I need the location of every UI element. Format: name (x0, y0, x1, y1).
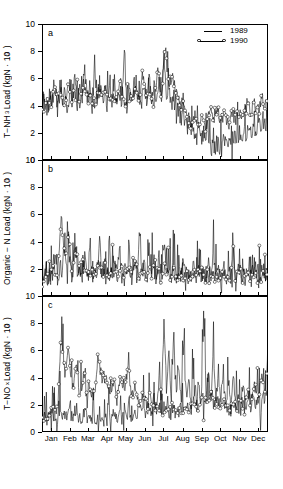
panel-c-marker-1990 (46, 417, 49, 420)
panel-c-marker-1990 (169, 405, 172, 408)
panel-c-marker-1990 (148, 391, 151, 394)
panel-c-marker-1990 (145, 397, 148, 400)
panel-c-marker-1990 (204, 396, 207, 399)
panel-c-marker-1990 (48, 414, 51, 417)
panel-c-marker-1990 (104, 376, 107, 379)
panel-c-marker-1990 (156, 405, 159, 408)
figure-root: T−NH3 Load (kgN · 103) a 1989 1990 Organ… (0, 0, 283, 489)
panel-c-marker-1990 (106, 381, 109, 384)
panel-c-marker-1990 (117, 391, 120, 394)
panel-c-marker-1990 (87, 380, 90, 383)
panel-c-marker-1990 (197, 409, 200, 412)
panel-c-marker-1990 (96, 353, 99, 356)
panel-c-marker-1990 (208, 399, 211, 402)
panel-c-series-layer (0, 0, 283, 489)
panel-c-marker-1990 (41, 416, 44, 419)
panel-c-marker-1990 (80, 360, 83, 363)
panel-c-marker-1990 (249, 404, 252, 407)
panel-c-marker-1990 (65, 367, 68, 370)
panel-c-marker-1990 (232, 403, 235, 406)
panel-c-marker-1990 (122, 376, 125, 379)
panel-c-marker-1990 (171, 401, 174, 404)
panel-c-marker-1990 (152, 404, 155, 407)
panel-c-marker-1990 (68, 364, 71, 367)
panel-c-marker-1990 (174, 409, 177, 412)
panel-c-marker-1990 (76, 371, 79, 374)
panel-c-marker-1990 (159, 388, 162, 391)
panel-c-marker-1990 (195, 405, 198, 408)
panel-c-marker-1990 (98, 360, 101, 363)
panel-c-marker-1990 (198, 403, 201, 406)
panel-c-marker-1990 (57, 383, 60, 386)
panel-c-marker-1990 (185, 408, 188, 411)
panel-c-marker-1990 (72, 386, 75, 389)
panel-c-marker-1990 (61, 350, 64, 353)
panel-c-marker-1990 (52, 405, 55, 408)
panel-c-marker-1990 (55, 405, 58, 408)
panel-c-marker-1990 (154, 409, 157, 412)
panel-c-marker-1990 (120, 381, 123, 384)
panel-c-marker-1990 (124, 381, 127, 384)
panel-c-marker-1990 (210, 390, 213, 393)
panel-c-marker-1990 (107, 385, 110, 388)
panel-c-marker-1990 (247, 388, 250, 391)
panel-c-marker-1990 (111, 381, 114, 384)
panel-c-marker-1990 (228, 409, 231, 412)
panel-c-marker-1990 (239, 399, 242, 402)
panel-c-marker-1990 (243, 413, 246, 416)
panel-c-marker-1990 (109, 377, 112, 380)
panel-c-marker-1990 (236, 410, 239, 413)
panel-c-marker-1990 (262, 381, 265, 384)
panel-c-marker-1990 (85, 391, 88, 394)
panel-c-marker-1990 (67, 346, 70, 349)
panel-c-marker-1990 (100, 370, 103, 373)
panel-c-marker-1990 (139, 399, 142, 402)
panel-c-marker-1990 (178, 407, 181, 410)
panel-c-marker-1990 (161, 414, 164, 417)
panel-c-marker-1990 (113, 378, 116, 381)
panel-c-marker-1990 (265, 372, 268, 375)
panel-c-marker-1990 (137, 404, 140, 407)
panel-c-marker-1990 (158, 409, 161, 412)
panel-c-marker-1990 (215, 402, 218, 405)
panel-c-marker-1990 (254, 383, 257, 386)
panel-c-marker-1990 (83, 372, 86, 375)
panel-c-marker-1990 (245, 396, 248, 399)
panel-c-marker-1990 (226, 404, 229, 407)
panel-c-marker-1990 (252, 388, 255, 391)
panel-c-marker-1990 (211, 396, 214, 399)
panel-c-marker-1990 (59, 341, 62, 344)
panel-c-marker-1990 (234, 400, 237, 403)
panel-c-line-1989 (42, 311, 268, 431)
panel-c-marker-1990 (182, 412, 185, 415)
panel-c-marker-1990 (74, 367, 77, 370)
panel-c-marker-1990 (146, 407, 149, 410)
panel-c-marker-1990 (187, 411, 190, 414)
panel-c-marker-1990 (263, 390, 266, 393)
panel-c-marker-1990 (176, 412, 179, 415)
panel-c-marker-1990 (256, 366, 259, 369)
panel-c-marker-1990 (200, 396, 203, 399)
panel-c-marker-1990 (258, 393, 261, 396)
panel-c-marker-1990 (132, 396, 135, 399)
panel-c-marker-1990 (213, 406, 216, 409)
panel-c-marker-1990 (250, 398, 253, 401)
panel-c-marker-1990 (70, 359, 73, 362)
panel-c-marker-1990 (141, 391, 144, 394)
panel-c-marker-1990 (94, 381, 97, 384)
panel-c-marker-1990 (93, 390, 96, 393)
panel-c-marker-1990 (133, 381, 136, 384)
panel-c-marker-1990 (219, 407, 222, 410)
panel-c-marker-1990 (223, 398, 226, 401)
panel-c-marker-1990 (202, 419, 205, 422)
panel-c-marker-1990 (78, 394, 81, 397)
panel-c-marker-1990 (63, 361, 66, 364)
panel-c-marker-1990 (135, 393, 138, 396)
panel-c-marker-1990 (115, 395, 118, 398)
panel-c-marker-1990 (221, 403, 224, 406)
panel-c-marker-1990 (128, 369, 131, 372)
panel-c-marker-1990 (81, 381, 84, 384)
panel-c-marker-1990 (54, 408, 57, 411)
panel-c-marker-1990 (241, 407, 244, 410)
panel-c-marker-1990 (119, 375, 122, 378)
